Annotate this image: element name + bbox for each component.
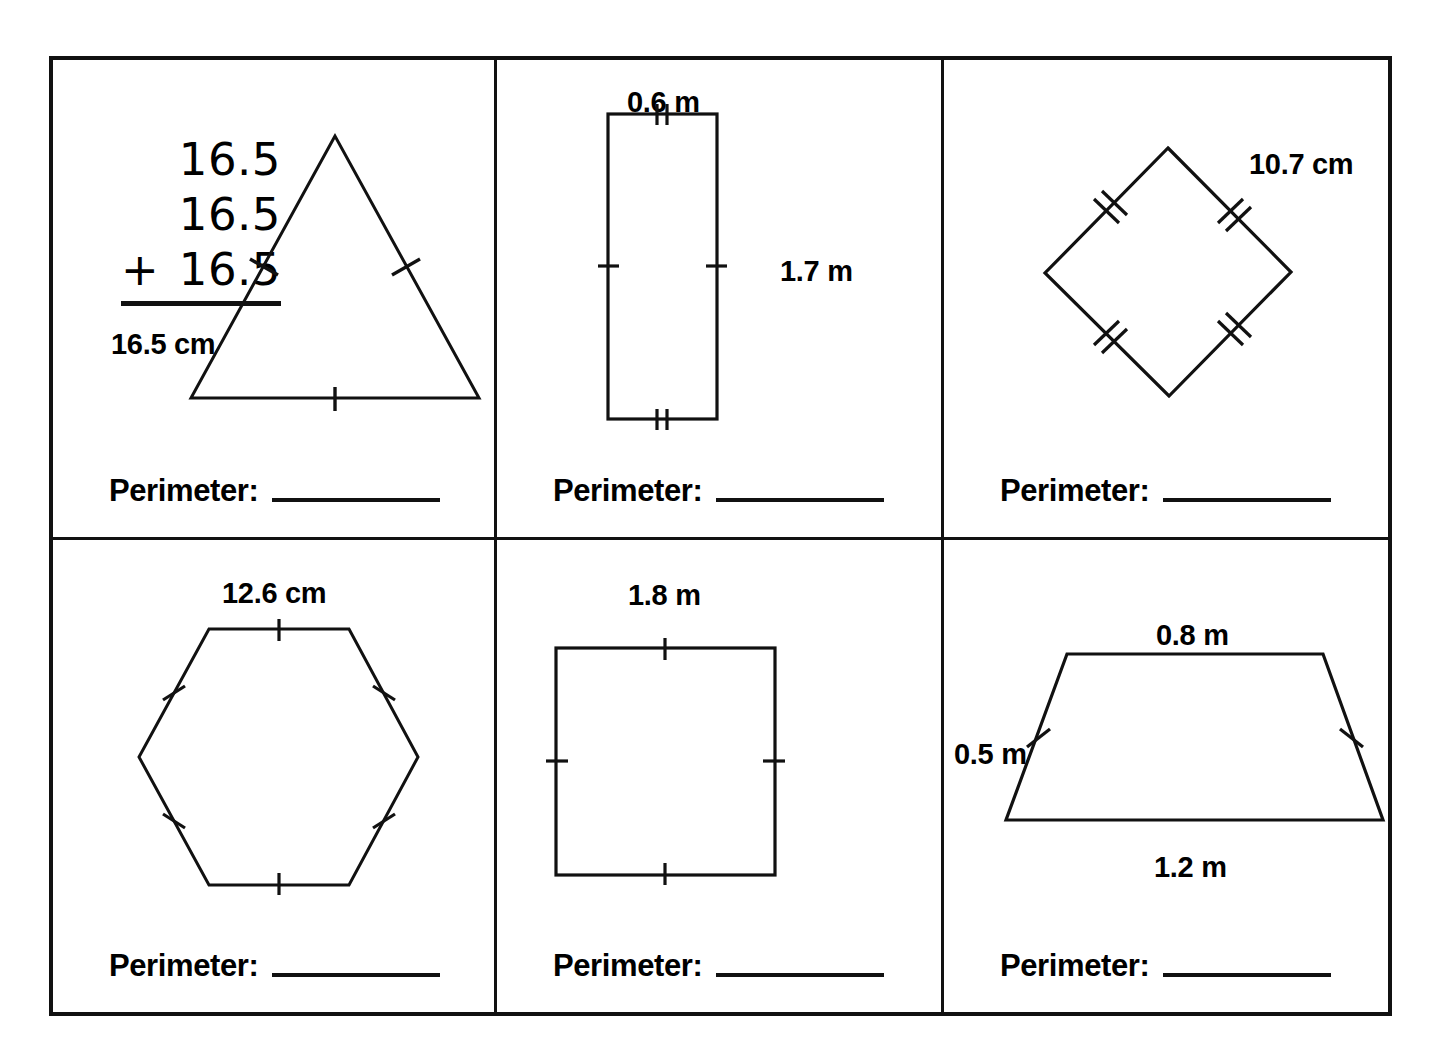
hexagon-figure bbox=[53, 540, 497, 960]
perimeter-blank-line[interactable] bbox=[716, 498, 884, 502]
worksheet-cell-square: 1.8 m Perimeter: bbox=[497, 537, 944, 1012]
worksheet-cell-trapezoid: 0.8 m 1.2 m 0.5 m Perimeter: bbox=[944, 537, 1388, 1012]
perimeter-blank-line[interactable] bbox=[272, 498, 440, 502]
perimeter-answer-hexagon[interactable]: Perimeter: bbox=[109, 948, 440, 984]
perimeter-label: Perimeter: bbox=[1000, 948, 1149, 984]
triangle-figure bbox=[53, 60, 497, 480]
square-figure bbox=[497, 540, 944, 960]
perimeter-answer-rhombus[interactable]: Perimeter: bbox=[1000, 473, 1331, 509]
perimeter-blank-line[interactable] bbox=[272, 973, 440, 977]
trapezoid-figure bbox=[944, 540, 1388, 960]
perimeter-blank-line[interactable] bbox=[1163, 498, 1331, 502]
rhombus-figure bbox=[944, 60, 1388, 490]
perimeter-answer-rectangle[interactable]: Perimeter: bbox=[553, 473, 884, 509]
perimeter-answer-square[interactable]: Perimeter: bbox=[553, 948, 884, 984]
worksheet-cell-triangle: 16.5 16.5 + 16.5 16.5 cm Perimeter: bbox=[53, 60, 497, 537]
perimeter-label: Perimeter: bbox=[109, 948, 258, 984]
worksheet-cell-rectangle: 0.6 m 1.7 m Perimeter: bbox=[497, 60, 944, 537]
perimeter-label: Perimeter: bbox=[553, 948, 702, 984]
perimeter-label: Perimeter: bbox=[109, 473, 258, 509]
perimeter-label: Perimeter: bbox=[1000, 473, 1149, 509]
worksheet-cell-hexagon: 12.6 cm Perimeter: bbox=[53, 537, 497, 1012]
perimeter-blank-line[interactable] bbox=[716, 973, 884, 977]
perimeter-answer-trapezoid[interactable]: Perimeter: bbox=[1000, 948, 1331, 984]
worksheet-cell-rhombus: 10.7 cm Perimeter: bbox=[944, 60, 1388, 537]
perimeter-label: Perimeter: bbox=[553, 473, 702, 509]
perimeter-blank-line[interactable] bbox=[1163, 973, 1331, 977]
perimeter-answer-triangle[interactable]: Perimeter: bbox=[109, 473, 440, 509]
rectangle-figure bbox=[497, 60, 944, 490]
perimeter-worksheet-grid: 16.5 16.5 + 16.5 16.5 cm Perimeter: bbox=[49, 56, 1392, 1016]
